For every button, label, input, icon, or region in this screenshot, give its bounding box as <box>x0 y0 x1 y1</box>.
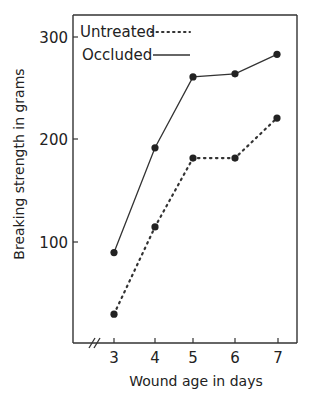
x-tick-7: 7 <box>273 349 283 367</box>
plot-frame <box>73 15 297 343</box>
y-tick-100: 100 <box>39 234 68 252</box>
data-point-occluded-day-3 <box>110 249 117 256</box>
series-line-occluded <box>114 54 277 252</box>
legend-occluded-label: Occluded <box>82 46 152 64</box>
x-tick-3: 3 <box>109 349 119 367</box>
x-tick-6: 6 <box>230 349 240 367</box>
y-ticks: 300 200 100 <box>39 29 78 252</box>
series-line-untreated <box>114 118 277 314</box>
data-point-occluded-day-7 <box>273 51 280 58</box>
y-tick-300: 300 <box>39 29 68 47</box>
data-point-occluded-day-4 <box>151 144 158 151</box>
data-point-occluded-day-5 <box>189 73 196 80</box>
y-tick-200: 200 <box>39 131 68 149</box>
x-axis-label: Wound age in days <box>129 373 262 389</box>
line-chart: 300 200 100 3 4 5 6 7 Wound age in days … <box>0 0 310 399</box>
legend: Untreated Occluded <box>80 23 190 64</box>
series-layer <box>110 51 280 318</box>
data-point-untreated-day-7 <box>273 114 280 121</box>
data-point-untreated-day-3 <box>110 311 117 318</box>
data-point-occluded-day-6 <box>231 70 238 77</box>
data-point-untreated-day-4 <box>151 223 158 230</box>
data-point-untreated-day-5 <box>189 154 196 161</box>
data-point-untreated-day-6 <box>231 154 238 161</box>
x-tick-4: 4 <box>150 349 160 367</box>
legend-untreated-label: Untreated <box>80 23 155 41</box>
y-axis-label: Breaking strength in grams <box>11 68 27 259</box>
x-tick-5: 5 <box>188 349 198 367</box>
